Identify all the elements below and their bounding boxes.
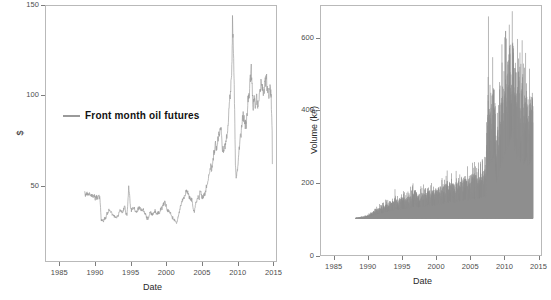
y-tick-mark — [316, 38, 320, 39]
x-tick-label: 1995 — [115, 268, 147, 277]
x-tick-mark — [95, 262, 96, 266]
x-tick-label: 2010 — [222, 268, 254, 277]
y-tick-mark — [316, 183, 320, 184]
x-tick-label: 2000 — [420, 262, 452, 271]
x-tick-label: 2015 — [523, 262, 551, 271]
x-tick-mark — [334, 256, 335, 260]
y-tick-label: 150 — [19, 0, 39, 9]
chart-panel-volume: 0200400600 1985199019952000200520102015 … — [280, 0, 551, 300]
x-tick-mark — [539, 256, 540, 260]
y-axis-title-volume: Volume (k#) — [309, 90, 319, 170]
plot-area-price — [45, 5, 277, 262]
x-tick-mark — [402, 256, 403, 260]
x-tick-mark — [470, 256, 471, 260]
y-tick-mark — [41, 95, 45, 96]
y-tick-label: 200 — [294, 178, 314, 187]
chart-panel-price: 50100150 1985199019952000200520102015 $ … — [0, 0, 280, 300]
x-tick-label: 1985 — [318, 262, 350, 271]
y-tick-label: 100 — [19, 90, 39, 99]
x-tick-mark — [202, 262, 203, 266]
x-tick-mark — [166, 262, 167, 266]
x-tick-label: 2005 — [454, 262, 486, 271]
x-tick-label: 2005 — [186, 268, 218, 277]
x-tick-label: 2000 — [150, 268, 182, 277]
y-tick-mark — [316, 256, 320, 257]
x-tick-mark — [131, 262, 132, 266]
x-tick-mark — [238, 262, 239, 266]
y-tick-label: 0 — [294, 251, 314, 260]
figure-root: 50100150 1985199019952000200520102015 $ … — [0, 0, 551, 300]
x-axis-title-price: Date — [143, 282, 162, 292]
legend-label-front-month-oil-futures: Front month oil futures — [85, 110, 200, 121]
x-tick-label: 1995 — [386, 262, 418, 271]
x-tick-label: 1990 — [352, 262, 384, 271]
x-tick-mark — [59, 262, 60, 266]
x-tick-mark — [273, 262, 274, 266]
y-axis-title-price: $ — [15, 113, 25, 153]
y-tick-label: 600 — [294, 33, 314, 42]
y-tick-mark — [41, 186, 45, 187]
x-tick-mark — [368, 256, 369, 260]
x-tick-mark — [436, 256, 437, 260]
legend-price: Front month oil futures — [63, 110, 200, 121]
y-tick-label: 50 — [19, 181, 39, 190]
x-tick-label: 2010 — [488, 262, 520, 271]
price-line-series — [46, 6, 276, 261]
x-tick-label: 1985 — [43, 268, 75, 277]
x-tick-mark — [504, 256, 505, 260]
legend-line-swatch-icon — [63, 115, 80, 117]
volume-bar-series — [321, 6, 541, 255]
y-tick-mark — [41, 5, 45, 6]
x-axis-title-volume: Date — [413, 276, 432, 286]
x-tick-label: 1990 — [79, 268, 111, 277]
plot-area-volume — [320, 5, 542, 256]
